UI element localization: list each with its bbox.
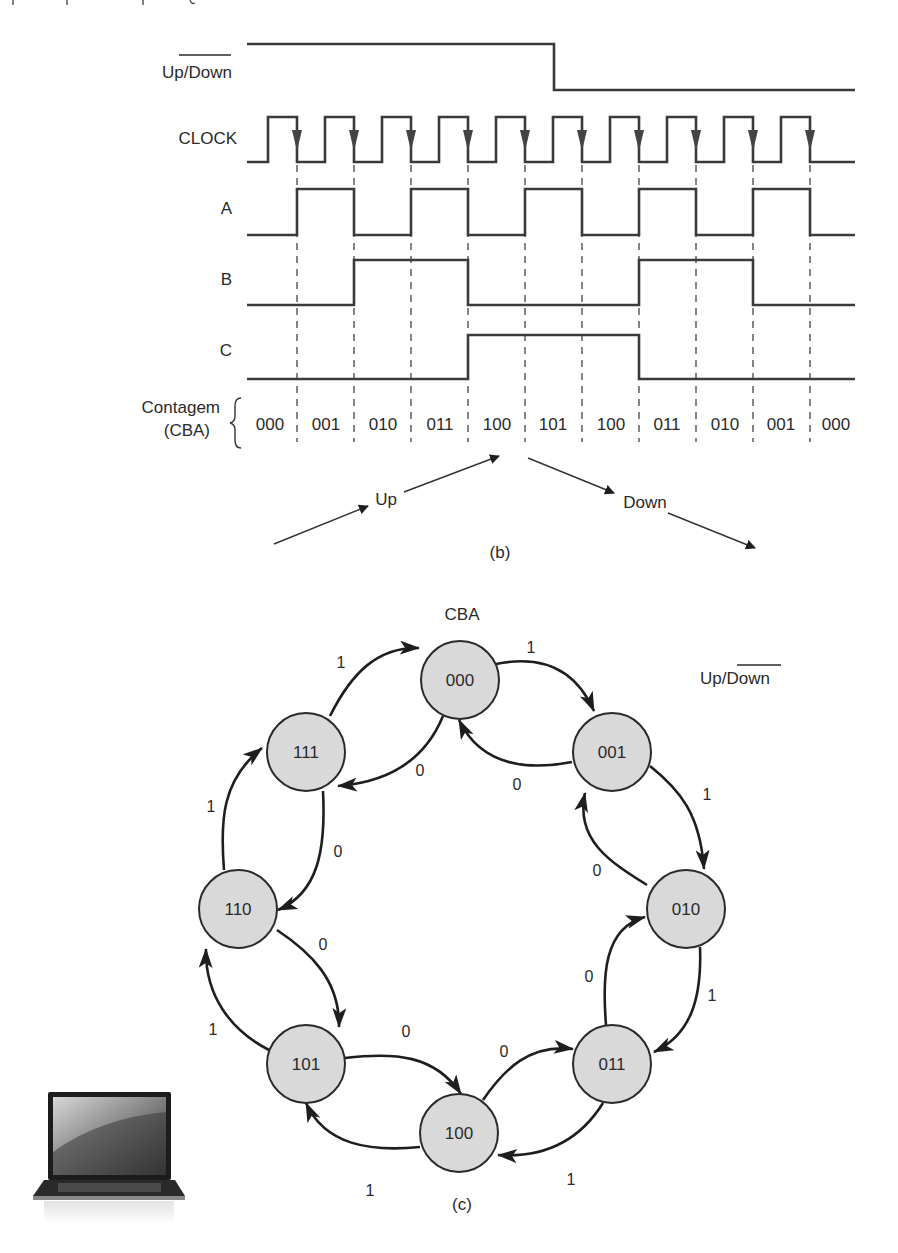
down-arrow-2 bbox=[668, 513, 755, 548]
count-value: 010 bbox=[711, 415, 739, 434]
edge-010-011 bbox=[654, 947, 700, 1052]
up-label: Up bbox=[375, 490, 397, 509]
state-node-001: 001 bbox=[573, 713, 651, 791]
figure-canvas: Up/Down CLOCK A B C Contagem (CBA) bbox=[0, 0, 898, 1253]
state-node-010: 010 bbox=[647, 870, 725, 948]
down-label: Down bbox=[623, 493, 666, 512]
direction-arrows: Up Down bbox=[274, 456, 755, 548]
label-100-101: 1 bbox=[366, 1182, 375, 1199]
state-node-111: 111 bbox=[267, 713, 345, 791]
caption-c: (c) bbox=[452, 1195, 472, 1214]
count-value: 001 bbox=[767, 415, 795, 434]
label-000-111: 0 bbox=[416, 762, 425, 779]
label-010-011: 1 bbox=[708, 987, 717, 1004]
label-011-100: 1 bbox=[567, 1171, 576, 1188]
edge-101-100 bbox=[345, 1056, 461, 1094]
up-arrow-2 bbox=[404, 456, 499, 492]
state-header-cba: CBA bbox=[445, 605, 481, 624]
state-node-110: 110 bbox=[199, 870, 277, 948]
waveform-up-down bbox=[247, 44, 855, 90]
curly-brace bbox=[230, 398, 241, 448]
svg-text:110: 110 bbox=[224, 900, 251, 919]
edge-100-101 bbox=[306, 1103, 420, 1148]
clipped-text-fragments bbox=[13, 0, 195, 5]
svg-text:001: 001 bbox=[598, 743, 626, 762]
signal-label-a: A bbox=[221, 199, 233, 218]
label-000-001: 1 bbox=[527, 639, 536, 656]
waveform-a bbox=[247, 189, 855, 235]
signal-label-up-down: Up/Down bbox=[162, 63, 232, 82]
count-value: 001 bbox=[312, 415, 340, 434]
count-label-line1: Contagem bbox=[142, 398, 220, 417]
label-110-111: 1 bbox=[207, 798, 216, 815]
state-node-100: 100 bbox=[420, 1094, 498, 1172]
edge-000-111 bbox=[338, 716, 443, 786]
waveform-c bbox=[247, 335, 855, 379]
edge-011-010 bbox=[605, 917, 645, 1025]
count-value: 011 bbox=[653, 415, 680, 434]
laptop-icon bbox=[33, 1092, 185, 1223]
label-111-110: 0 bbox=[334, 843, 343, 860]
label-100-011: 0 bbox=[500, 1043, 509, 1060]
waveform-b bbox=[247, 260, 855, 305]
edge-100-011 bbox=[483, 1048, 573, 1100]
svg-text:010: 010 bbox=[672, 900, 700, 919]
count-value: 000 bbox=[822, 415, 850, 434]
count-value: 011 bbox=[426, 415, 453, 434]
count-value: 100 bbox=[597, 415, 625, 434]
state-node-000: 000 bbox=[421, 641, 499, 719]
edge-110-101 bbox=[277, 930, 339, 1027]
state-node-011: 011 bbox=[573, 1025, 651, 1103]
edge-111-110 bbox=[278, 791, 324, 910]
count-value: 101 bbox=[539, 415, 567, 434]
label-010-001: 0 bbox=[593, 862, 602, 879]
edge-011-100 bbox=[498, 1103, 603, 1155]
overlined-down-text: Down bbox=[189, 63, 232, 82]
count-value: 100 bbox=[483, 415, 511, 434]
label-011-010: 0 bbox=[585, 968, 594, 985]
svg-text:101: 101 bbox=[292, 1055, 320, 1074]
count-value: 010 bbox=[369, 415, 397, 434]
count-value: 000 bbox=[256, 415, 284, 434]
signal-label-clock: CLOCK bbox=[178, 129, 237, 148]
edge-000-001 bbox=[496, 661, 594, 711]
count-label-line2: (CBA) bbox=[164, 421, 210, 440]
input-label-up-down: Up/Down bbox=[700, 669, 770, 688]
edge-001-010 bbox=[650, 766, 704, 869]
clock-edge-guides bbox=[297, 165, 810, 442]
svg-text:100: 100 bbox=[445, 1124, 473, 1143]
svg-text:111: 111 bbox=[293, 743, 319, 762]
label-001-000: 0 bbox=[513, 776, 522, 793]
state-diagram: CBA Up/Down 1 1 1 bbox=[199, 605, 781, 1214]
edge-001-000 bbox=[459, 720, 572, 766]
caption-b: (b) bbox=[490, 543, 511, 562]
label-111-000: 1 bbox=[337, 654, 346, 671]
signal-label-b: B bbox=[221, 270, 232, 289]
svg-text:000: 000 bbox=[446, 671, 474, 690]
signal-label-c: C bbox=[220, 341, 232, 360]
label-101-110: 1 bbox=[209, 1021, 218, 1038]
timing-diagram: Up/Down CLOCK A B C Contagem (CBA) bbox=[142, 44, 855, 562]
svg-text:011: 011 bbox=[598, 1055, 625, 1074]
up-arrow-1 bbox=[274, 506, 368, 544]
label-101-100: 0 bbox=[402, 1023, 411, 1040]
state-node-101: 101 bbox=[267, 1025, 345, 1103]
label-110-101: 0 bbox=[319, 936, 328, 953]
state-nodes: 000 001 010 011 100 101 bbox=[199, 641, 725, 1172]
waveform-clock bbox=[247, 117, 855, 162]
down-arrow-1 bbox=[528, 458, 614, 493]
count-values: 000 001 010 011 100 101 100 011 010 001 … bbox=[256, 415, 850, 434]
edge-110-111 bbox=[223, 748, 262, 870]
label-001-010: 1 bbox=[703, 786, 712, 803]
